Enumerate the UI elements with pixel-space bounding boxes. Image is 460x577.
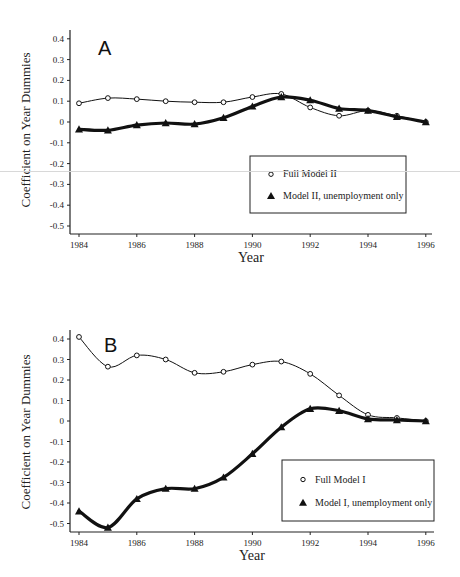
x-tick-label: 1986 xyxy=(128,538,147,548)
y-tick-label: 0.4 xyxy=(53,34,65,44)
circle-marker-icon xyxy=(106,364,111,369)
circle-marker-icon xyxy=(192,370,197,375)
panel-letter: B xyxy=(104,334,117,356)
y-axis-title: Coefficient on Year Dummies xyxy=(18,354,33,509)
legend-label-full-model: Full Model I xyxy=(315,474,366,485)
legend-box xyxy=(282,460,434,521)
y-tick-label: -0.3 xyxy=(50,179,65,189)
x-tick-label: 1994 xyxy=(359,240,378,250)
y-tick-label: 0.3 xyxy=(53,355,65,365)
y-tick-label: -0.2 xyxy=(50,457,64,467)
y-tick-label: -0.5 xyxy=(50,519,65,529)
circle-marker-icon xyxy=(77,335,82,340)
legend: Full Model IModel I, unemployment only xyxy=(282,460,434,521)
chart-panel-a: 0.40.30.20.10-0.1-0.2-0.3-0.4-0.51984198… xyxy=(0,0,460,290)
line-chart-b: 0.40.30.20.10-0.1-0.2-0.3-0.4-0.51984198… xyxy=(0,290,460,577)
panel-letter: A xyxy=(98,37,112,59)
x-axis-title: Year xyxy=(239,548,265,563)
y-tick-label: 0.1 xyxy=(53,96,64,106)
y-tick-label: 0.2 xyxy=(53,75,64,85)
y-tick-label: 0.2 xyxy=(53,375,64,385)
y-axis-title: Coefficient on Year Dummies xyxy=(18,52,33,207)
series-line-unemployment-only xyxy=(79,97,426,131)
scan-artifact-line xyxy=(0,171,460,172)
y-tick-label: -0.1 xyxy=(50,138,64,148)
circle-marker-icon xyxy=(163,99,168,104)
series-line-full-model xyxy=(79,337,426,421)
x-tick-label: 1992 xyxy=(301,538,319,548)
x-tick-label: 1986 xyxy=(128,240,147,250)
x-tick-label: 1996 xyxy=(417,538,436,548)
circle-marker-icon xyxy=(163,357,168,362)
legend-label-unemployment-only: Model II, unemployment only xyxy=(283,190,404,201)
line-chart-a: 0.40.30.20.10-0.1-0.2-0.3-0.4-0.51984198… xyxy=(0,0,460,290)
legend-box xyxy=(250,156,406,213)
circle-marker-icon xyxy=(308,371,313,376)
circle-marker-icon xyxy=(221,369,226,374)
circle-marker-icon xyxy=(337,393,342,398)
y-tick-label: 0 xyxy=(60,117,65,127)
circle-marker-icon xyxy=(279,359,284,364)
circle-marker-icon xyxy=(337,113,342,118)
y-tick-label: -0.4 xyxy=(50,498,65,508)
circle-marker-icon xyxy=(77,101,82,106)
x-tick-label: 1996 xyxy=(417,240,436,250)
y-tick-label: 0.3 xyxy=(53,55,65,65)
x-tick-label: 1990 xyxy=(243,240,262,250)
circle-marker-icon xyxy=(221,100,226,105)
x-tick-label: 1988 xyxy=(186,538,205,548)
y-tick-label: -0.5 xyxy=(50,221,65,231)
y-tick-label: 0 xyxy=(60,416,65,426)
circle-marker-icon xyxy=(250,95,255,100)
chart-panel-b: 0.40.30.20.10-0.1-0.2-0.3-0.4-0.51984198… xyxy=(0,290,460,577)
circle-marker-icon xyxy=(134,353,139,358)
y-tick-label: 0.4 xyxy=(53,334,65,344)
y-tick-label: 0.1 xyxy=(53,396,64,406)
x-tick-label: 1990 xyxy=(243,538,262,548)
x-tick-label: 1992 xyxy=(301,240,319,250)
x-tick-label: 1994 xyxy=(359,538,378,548)
x-tick-label: 1984 xyxy=(70,240,89,250)
legend: Full Model IIModel II, unemployment only xyxy=(250,156,406,213)
triangle-marker-icon xyxy=(75,507,83,514)
x-tick-label: 1984 xyxy=(70,538,89,548)
y-tick-label: -0.3 xyxy=(50,478,65,488)
circle-marker-icon xyxy=(106,96,111,101)
circle-marker-icon xyxy=(192,100,197,105)
legend-label-unemployment-only: Model I, unemployment only xyxy=(315,497,432,508)
circle-marker-icon xyxy=(308,105,313,110)
y-tick-label: -0.4 xyxy=(50,200,65,210)
y-tick-label: -0.2 xyxy=(50,159,64,169)
x-tick-label: 1988 xyxy=(186,240,205,250)
legend-label-full-model: Full Model II xyxy=(283,168,337,179)
circle-marker-icon xyxy=(134,97,139,102)
circle-marker-icon xyxy=(301,477,305,481)
circle-marker-icon xyxy=(250,362,255,367)
y-tick-label: -0.1 xyxy=(50,437,64,447)
circle-marker-icon xyxy=(269,172,273,176)
x-axis-title: Year xyxy=(238,250,264,265)
